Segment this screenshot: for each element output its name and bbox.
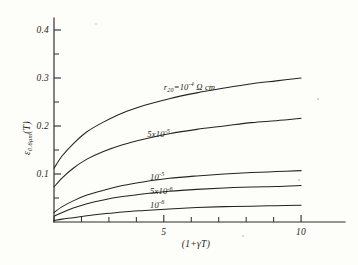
paper-specks xyxy=(95,23,319,237)
x-tick-label: 5 xyxy=(161,227,166,237)
curve-label: r20=10-4 Ω cm xyxy=(164,81,215,93)
y-tick-label: 0.3 xyxy=(37,73,50,83)
curve-label: 10-6 xyxy=(150,199,165,210)
x-tick-label: 10 xyxy=(296,227,306,237)
y-tick-label: 0.2 xyxy=(37,121,50,131)
y-axis-title-subscript: 0.6μm xyxy=(26,134,33,151)
data-curve xyxy=(54,186,301,217)
curve-label: 5x10-5 xyxy=(147,128,170,139)
curve-label: 5x10-6 xyxy=(150,186,173,197)
svg-text:ε0.6μm(T): ε0.6μm(T) xyxy=(22,121,33,155)
curve-label: 10-5 xyxy=(150,171,164,182)
data-curves xyxy=(54,78,301,221)
x-axis-ticks xyxy=(54,215,301,222)
y-tick-label: 0.4 xyxy=(37,25,50,35)
figure-root: 0.10.20.30.4 510 r20=10-4 Ω cm5x10-510-5… xyxy=(0,0,358,265)
y-tick-label: 0.1 xyxy=(37,169,49,179)
x-axis-title-text: (1+γT) xyxy=(182,239,210,250)
y-axis-title: ε0.6μm(T) xyxy=(22,121,33,155)
data-curve xyxy=(54,205,301,220)
y-axis-title-tail: (T) xyxy=(22,121,33,134)
chart-canvas: 0.10.20.30.4 510 r20=10-4 Ω cm5x10-510-5… xyxy=(0,0,358,265)
x-axis-title: (1+γT) xyxy=(182,239,210,250)
y-axis-ticks xyxy=(54,30,61,198)
y-axis-tick-labels: 0.10.20.30.4 xyxy=(37,25,50,179)
x-axis-tick-labels: 510 xyxy=(161,227,306,237)
